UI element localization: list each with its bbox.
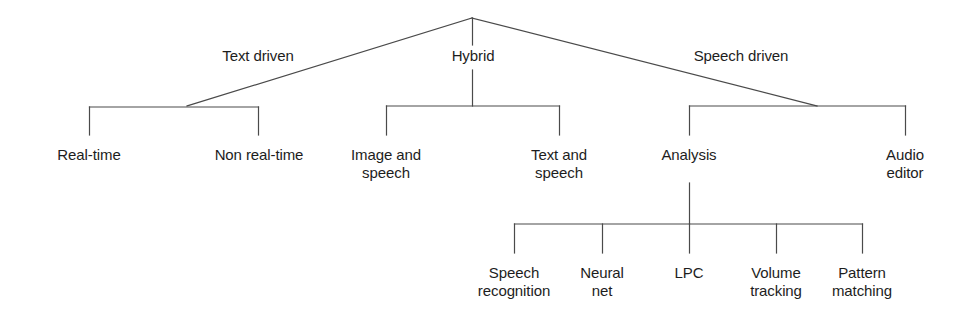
- tree-diagram: Text driven Hybrid Speech driven Real-ti…: [0, 0, 974, 323]
- node-neural-net: Neural net: [580, 264, 624, 300]
- edge-label-hybrid: Hybrid: [449, 47, 498, 65]
- node-volume-tracking: Volume tracking: [750, 264, 802, 300]
- edge-label-speech-driven: Speech driven: [691, 47, 792, 65]
- node-audio-editor: Audio editor: [886, 146, 924, 182]
- node-pattern-matching: Pattern matching: [832, 264, 892, 300]
- node-speech-recognition: Speech recognition: [478, 264, 550, 300]
- node-lpc: LPC: [675, 264, 704, 282]
- edge-label-text-driven: Text driven: [219, 47, 296, 65]
- node-real-time: Real-time: [57, 146, 120, 164]
- node-analysis: Analysis: [661, 146, 716, 164]
- node-non-real-time: Non real-time: [215, 146, 304, 164]
- node-text-and-speech: Text and speech: [531, 146, 587, 182]
- node-image-and-speech: Image and speech: [351, 146, 421, 182]
